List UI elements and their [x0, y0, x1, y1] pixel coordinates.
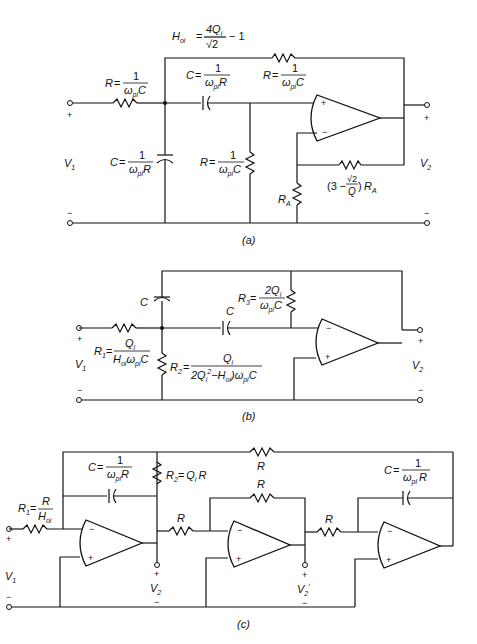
r-mid-fb-label: R — [257, 478, 265, 490]
r-right-in-label: R — [325, 513, 333, 525]
svg-text:=: = — [209, 156, 215, 168]
svg-text:1: 1 — [230, 149, 236, 161]
r3-label: R3 = 2Qi ωpiC — [238, 284, 285, 314]
v1-label: V1 — [5, 570, 16, 584]
ra-label: RA — [278, 193, 291, 207]
caption-b: (b) — [242, 410, 256, 422]
svg-text:1: 1 — [215, 62, 221, 74]
svg-text:R1: R1 — [94, 345, 106, 359]
svg-text:−: − — [418, 385, 423, 395]
v2-label: V2 — [412, 359, 423, 373]
svg-text:√2: √2 — [206, 38, 218, 50]
c-series-label: C = 1 ωpiR — [186, 62, 230, 91]
r1-label: R1 = R Hoi — [18, 495, 53, 524]
svg-text:Q: Q — [348, 186, 356, 197]
c2-label: C = 1 ωpiR — [384, 457, 430, 486]
r-shunt-label: R = 1 ωpiC — [200, 149, 244, 178]
svg-text:=: = — [119, 156, 125, 168]
v2-prime-label: V2′ — [297, 583, 310, 597]
svg-text:−: − — [302, 598, 307, 608]
svg-text:=: = — [393, 464, 399, 476]
svg-text:−: − — [387, 526, 392, 536]
svg-text:ωpiC: ωpiC — [124, 84, 146, 99]
svg-text:=: = — [196, 30, 202, 42]
svg-text:ωpiR: ωpiR — [403, 471, 427, 486]
svg-text:C: C — [186, 69, 194, 81]
svg-text:=: = — [195, 69, 201, 81]
svg-text:+: + — [418, 336, 423, 346]
svg-text:=: = — [30, 502, 36, 514]
svg-text:−: − — [77, 385, 82, 395]
svg-text:−: − — [67, 208, 72, 218]
svg-text:ωpiC: ωpiC — [219, 163, 241, 178]
r2-label: R2=QiR — [166, 469, 206, 483]
svg-text:1: 1 — [117, 454, 123, 466]
svg-text:R: R — [263, 69, 271, 81]
svg-text:=: = — [114, 77, 120, 89]
r-input-label: R = 1 ωpiC — [105, 70, 148, 99]
svg-text:+: + — [77, 334, 82, 344]
v1-label: V1 — [75, 358, 86, 372]
svg-text:ωpiC: ωpiC — [282, 76, 304, 91]
svg-text:√2: √2 — [347, 174, 357, 184]
svg-text:+: + — [302, 570, 307, 580]
svg-text:): ) — [358, 180, 362, 192]
svg-text:ωpiR: ωpiR — [107, 468, 129, 483]
panel-c: − + − + − + — [5, 448, 453, 630]
circuit-diagram: Hoi = 4Qi √2 − 1 + − — [0, 0, 477, 644]
caption-c: (c) — [237, 618, 250, 630]
panel-a: Hoi = 4Qi √2 − 1 + − — [64, 23, 431, 246]
svg-text:C: C — [88, 461, 96, 473]
svg-text:+: + — [386, 555, 391, 565]
svg-text:+: + — [321, 98, 326, 108]
svg-text:−: − — [322, 127, 327, 137]
svg-text:+: + — [88, 553, 93, 563]
svg-text:R2: R2 — [170, 361, 182, 375]
svg-text:−: − — [424, 208, 429, 218]
svg-text:−: − — [154, 597, 159, 607]
svg-text:=: = — [272, 69, 278, 81]
svg-text:C: C — [384, 464, 392, 476]
svg-text:C: C — [110, 156, 118, 168]
panel-b: − + + − + − V1 V2 C C R1 = Qi HoiωpiC R2… — [75, 271, 423, 422]
top-expression: Hoi = 4Qi √2 − 1 — [172, 23, 245, 50]
svg-text:+: + — [325, 352, 330, 362]
r2-label: R2 = Qi 2Qi2−Hoi)ωpiC — [170, 352, 262, 384]
svg-text:− 1: − 1 — [229, 30, 245, 42]
svg-text:−: − — [326, 323, 331, 333]
svg-text:HoiωpiC: HoiωpiC — [113, 353, 148, 368]
svg-text:−: − — [6, 592, 11, 602]
svg-text:+: + — [424, 113, 429, 123]
c-top-label: C — [140, 296, 148, 308]
svg-text:+: + — [67, 110, 72, 120]
svg-text:Qi: Qi — [223, 352, 234, 366]
svg-text:R: R — [42, 495, 50, 507]
r-top-label: R — [257, 460, 265, 472]
svg-text:ωpiR: ωpiR — [205, 76, 227, 91]
svg-text:Hoi: Hoi — [172, 30, 186, 44]
svg-text:+: + — [154, 569, 159, 579]
v1-label: V1 — [64, 157, 75, 171]
svg-text:2Qi: 2Qi — [264, 284, 282, 298]
svg-text:1: 1 — [133, 70, 139, 82]
svg-text:Hoi: Hoi — [38, 510, 52, 524]
svg-text:+: + — [236, 554, 241, 564]
svg-text:RA: RA — [364, 180, 377, 194]
v2-label: V2 — [150, 582, 161, 596]
svg-text:+: + — [6, 534, 11, 544]
svg-text:ωpiR: ωpiR — [129, 163, 151, 178]
svg-text:R: R — [105, 77, 113, 89]
r-gain-label: (3 − √2 Q ) — [327, 174, 362, 197]
c-series-label: C — [226, 305, 234, 317]
svg-text:(3 −: (3 − — [327, 180, 346, 192]
c-shunt-label: C = 1 ωpiR — [110, 149, 153, 178]
svg-text:1: 1 — [292, 62, 298, 74]
svg-text:−: − — [237, 525, 242, 535]
svg-text:Qi: Qi — [125, 337, 136, 351]
c1-label: C = 1 ωpiR — [88, 454, 132, 483]
svg-text:=: = — [106, 345, 112, 357]
svg-text:2Qi2−Hoi)ωpiC: 2Qi2−Hoi)ωpiC — [190, 368, 257, 384]
svg-text:=: = — [183, 361, 189, 373]
r-mid-in-label: R — [177, 512, 185, 524]
svg-text:R1: R1 — [18, 502, 30, 516]
